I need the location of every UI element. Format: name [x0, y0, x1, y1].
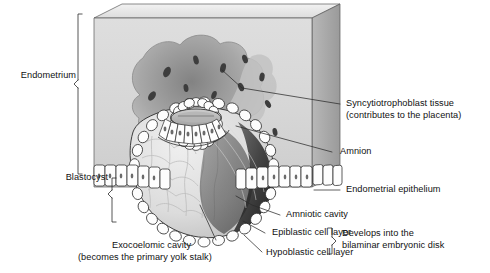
label-exocoelomic-line1: Exocoelomic cavity [112, 240, 191, 251]
label-develops-line1: Develops into the [342, 228, 414, 239]
label-exocoelomic-line2: (becomes the primary yolk stalk) [78, 252, 212, 263]
endometrium-bracket [78, 14, 82, 174]
label-epiblastic-cell-layer: Epiblastic cell layer [272, 227, 351, 238]
label-hypoblastic-cell-layer: Hypoblastic cell layer [266, 247, 353, 258]
label-amnion: Amnion [340, 146, 371, 157]
hypoblastic-leader [244, 235, 262, 252]
label-endometrium: Endometrium [4, 70, 76, 81]
blastocyst-implantation-illustration [0, 0, 490, 273]
label-blastocyst: Blastocyst [30, 172, 108, 183]
blastocyst-bracket-tip [108, 190, 112, 198]
label-develops-line2: bilaminar embryonic disk [342, 240, 444, 251]
figure-canvas: Endometrium Blastocyst Syncytiotrophobla… [0, 0, 490, 273]
label-syncytiotrophoblast-line2: (contributes to the placenta) [346, 110, 461, 121]
label-endometrial-epithelium: Endometrial epithelium [346, 184, 441, 195]
label-amniotic-cavity: Amniotic cavity [286, 209, 348, 220]
label-syncytiotrophoblast-line1: Syncytiotrophoblast tissue [346, 98, 454, 109]
